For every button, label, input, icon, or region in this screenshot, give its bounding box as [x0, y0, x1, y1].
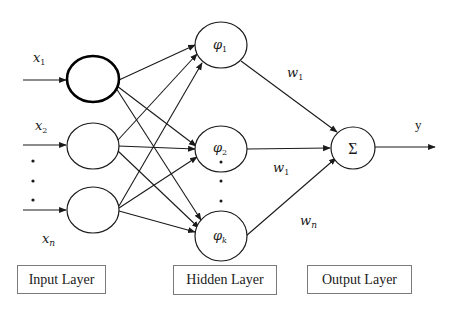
- hidden-output-connections: [241, 61, 337, 236]
- input-node-2: [67, 123, 119, 169]
- input-node-1: [67, 56, 119, 102]
- input-arrows: [23, 80, 66, 210]
- sigma-symbol: Σ: [348, 140, 357, 157]
- input-hidden-connections: [116, 45, 202, 232]
- layer-label-boxes: Input Layer Hidden Layer Output Layer: [18, 266, 412, 295]
- hidden-layer-label: Hidden Layer: [186, 272, 264, 287]
- weight-label-1: w1: [287, 65, 303, 82]
- input-ellipsis-dots: [31, 159, 34, 201]
- rbf-network-diagram: x1 x2 xn φ1 φ2: [0, 0, 456, 309]
- weight-label-n: wn: [300, 213, 317, 230]
- input-layer-nodes: [67, 56, 119, 233]
- input-label-n: xn: [42, 231, 55, 248]
- input-node-n: [67, 187, 119, 233]
- output-layer-label: Output Layer: [322, 272, 397, 287]
- weight-label-2: w1: [273, 160, 289, 177]
- input-label-1: x1: [33, 50, 45, 67]
- output-label: y: [415, 117, 422, 132]
- input-layer-label: Input Layer: [29, 272, 95, 287]
- input-label-2: x2: [35, 118, 47, 135]
